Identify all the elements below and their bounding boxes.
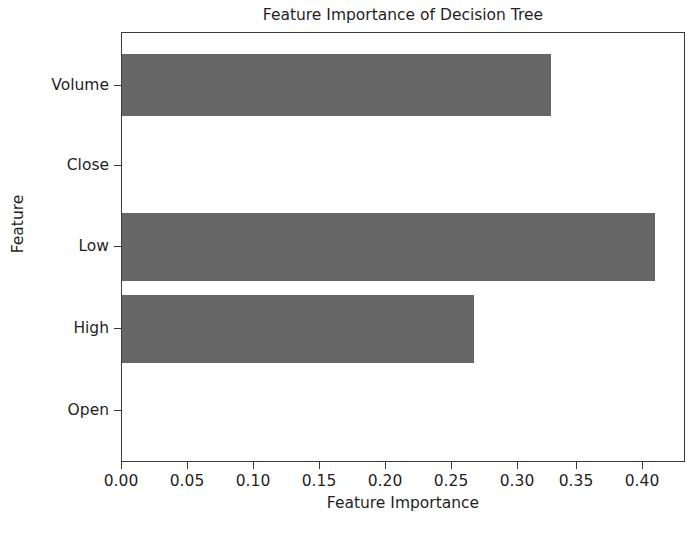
x-tick-mark-3	[319, 462, 320, 469]
chart-figure: Feature Importance of Decision Tree Feat…	[0, 0, 697, 540]
bar-volume	[122, 54, 551, 116]
y-tick-label-high: High	[73, 320, 109, 336]
x-tick-mark-0	[121, 462, 122, 469]
x-tick-mark-6	[517, 462, 518, 469]
bar-low	[122, 213, 655, 281]
x-tick-mark-2	[253, 462, 254, 469]
y-tick-label-volume: Volume	[51, 77, 109, 93]
chart-title: Feature Importance of Decision Tree	[121, 5, 685, 25]
x-tick-mark-7	[576, 462, 577, 469]
x-tick-label-8: 0.40	[602, 472, 682, 490]
y-tick-mark-close	[114, 165, 121, 166]
x-tick-mark-1	[187, 462, 188, 469]
y-tick-mark-low	[114, 246, 121, 247]
y-tick-mark-high	[114, 328, 121, 329]
plot-area	[121, 32, 685, 462]
x-axis-label: Feature Importance	[121, 494, 685, 512]
y-tick-mark-volume	[114, 85, 121, 86]
y-tick-label-close: Close	[67, 157, 109, 173]
bar-high	[122, 295, 474, 363]
x-tick-mark-5	[451, 462, 452, 469]
y-tick-label-open: Open	[68, 402, 109, 418]
x-tick-mark-4	[385, 462, 386, 469]
x-tick-mark-8	[642, 462, 643, 469]
y-axis-label: Feature	[9, 114, 27, 334]
y-tick-label-low: Low	[78, 238, 109, 254]
y-tick-mark-open	[114, 410, 121, 411]
